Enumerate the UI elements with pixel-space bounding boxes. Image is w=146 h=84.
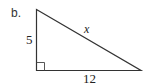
- triangle-drawing: [0, 0, 146, 84]
- hypotenuse-label: x: [84, 23, 89, 35]
- part-label: b.: [11, 7, 21, 19]
- vertical-leg-label: 5: [26, 33, 33, 46]
- right-angle-marker: [37, 63, 45, 71]
- horizontal-leg-label: 12: [83, 72, 96, 84]
- right-triangle-figure: b. 5 x 12: [0, 0, 146, 84]
- triangle-outline: [37, 10, 142, 71]
